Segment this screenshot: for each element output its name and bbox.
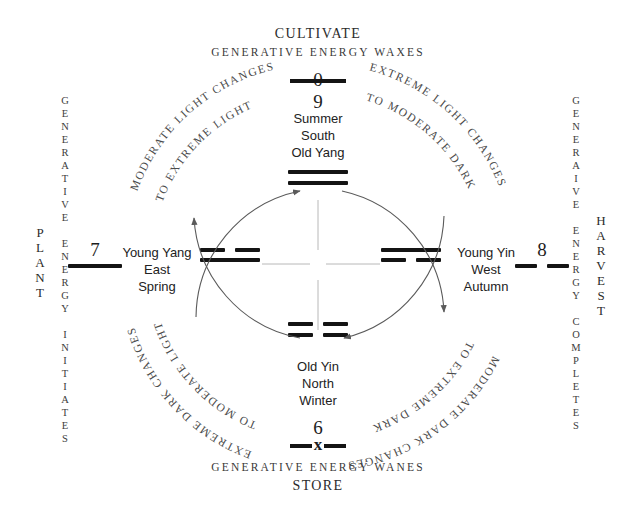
arc-text-top-left-1: MODERATE LIGHT CHANGES xyxy=(128,60,276,193)
diagram-canvas: CULTIVATE Generative Energy Waxes 0 9 6 … xyxy=(0,0,636,510)
arc-text-top-right-2: TO MODERATE DARK xyxy=(365,91,478,192)
arc-text-bottom-left-1: EXTREME DARK CHANGES xyxy=(124,325,252,461)
arc-text-top-right-1: EXTREME LIGHT CHANGES xyxy=(369,61,509,189)
arc-stroke-bottom-left xyxy=(194,218,300,338)
arc-stroke-top-right xyxy=(342,191,444,312)
arc-text-top-left-2: TO EXTREME LIGHT xyxy=(153,98,254,203)
arc-layer: MODERATE LIGHT CHANGES TO EXTREME LIGHT … xyxy=(0,0,636,510)
arc-stroke-bottom-right xyxy=(344,216,444,338)
arc-text-bottom-left-2: TO MODERATE LIGHT xyxy=(151,320,258,432)
arc-stroke-top-left xyxy=(196,191,300,317)
arc-text-bottom-right-2: TO EXTREME DARK xyxy=(370,340,476,435)
arc-text-bottom-right-1: MODERATE DARK CHANGES xyxy=(346,355,502,473)
